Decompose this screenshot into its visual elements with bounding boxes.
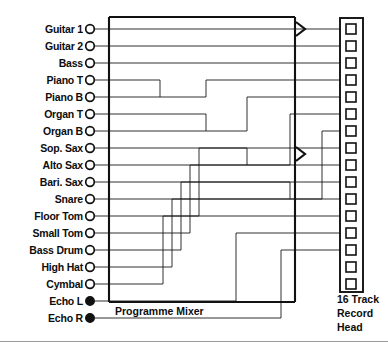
- channel-label-cymbal: Cymbal: [46, 278, 83, 290]
- record-head-pad-2[interactable]: [346, 41, 356, 51]
- signal-wire-group: [95, 29, 341, 318]
- channel-label-bass: Bass: [59, 57, 84, 69]
- record-head-pad-12[interactable]: [346, 211, 356, 221]
- arrow-right-icon-lower: [296, 147, 305, 161]
- channel-label-organ-b: Organ B: [43, 125, 84, 137]
- input-jack-snare[interactable]: [86, 195, 95, 204]
- input-jack-bass-drum[interactable]: [86, 246, 95, 255]
- wire-piano-b: [95, 80, 341, 97]
- input-jack-guitar-2[interactable]: [86, 42, 95, 51]
- channel-label-floor-tom: Floor Tom: [34, 210, 83, 222]
- input-jack-bari-sax[interactable]: [86, 178, 95, 187]
- wire-sop-sax: [95, 148, 248, 165]
- diagram-canvas: Guitar 1 Guitar 2 Bass Piano T Piano B O…: [0, 0, 388, 344]
- programme-mixer-box: [109, 17, 295, 302]
- channel-label-alto-sax: Alto Sax: [43, 159, 84, 171]
- channel-label-snare: Snare: [55, 193, 84, 205]
- channel-label-guitar-2: Guitar 2: [45, 40, 83, 52]
- record-head-pad-5[interactable]: [346, 92, 356, 102]
- input-jack-echo-r[interactable]: [86, 314, 95, 323]
- input-jack-sop-sax[interactable]: [86, 144, 95, 153]
- channel-label-sop-sax: Sop. Sax: [40, 142, 83, 154]
- input-jack-piano-t[interactable]: [86, 76, 95, 85]
- record-head-pad-1[interactable]: [346, 24, 356, 34]
- channel-label-bari-sax: Bari. Sax: [40, 176, 84, 188]
- input-jack-organ-b[interactable]: [86, 127, 95, 136]
- record-head-caption-line-2: Record: [337, 307, 373, 319]
- record-head-pad-3[interactable]: [346, 58, 356, 68]
- record-head-pad-7[interactable]: [346, 126, 356, 136]
- record-head-pad-13[interactable]: [346, 228, 356, 238]
- input-jack-small-tom[interactable]: [86, 229, 95, 238]
- record-head-pad-10[interactable]: [346, 177, 356, 187]
- channel-label-echo-l: Echo L: [49, 295, 84, 307]
- record-head-pad-4[interactable]: [346, 75, 356, 85]
- channel-label-guitar-1: Guitar 1: [45, 23, 83, 35]
- channel-label-small-tom: Small Tom: [32, 227, 83, 239]
- channel-label-high-hat: High Hat: [41, 261, 83, 273]
- wire-piano-t: [95, 80, 161, 97]
- record-head-pad-8[interactable]: [346, 143, 356, 153]
- input-jack-bass[interactable]: [86, 59, 95, 68]
- record-head-caption-line-1: 16 Track: [337, 293, 379, 305]
- wire-organ-t: [95, 114, 207, 131]
- input-jack-group: [86, 25, 95, 323]
- input-jack-piano-b[interactable]: [86, 93, 95, 102]
- channel-label-bass-drum: Bass Drum: [29, 244, 83, 256]
- mixer-caption: Programme Mixer: [115, 305, 204, 317]
- channel-label-piano-b: Piano B: [45, 91, 83, 103]
- channel-label-organ-t: Organ T: [44, 108, 84, 120]
- input-jack-guitar-1[interactable]: [86, 25, 95, 34]
- input-jack-floor-tom[interactable]: [86, 212, 95, 221]
- channel-label-echo-r: Echo R: [48, 312, 84, 324]
- input-jack-high-hat[interactable]: [86, 263, 95, 272]
- record-head-pad-11[interactable]: [346, 194, 356, 204]
- wire-bari-sax: [95, 182, 291, 199]
- input-jack-organ-t[interactable]: [86, 110, 95, 119]
- input-jack-alto-sax[interactable]: [86, 161, 95, 170]
- record-head-pad-16[interactable]: [346, 279, 356, 289]
- record-head-pad-6[interactable]: [346, 109, 356, 119]
- record-head-pad-9[interactable]: [346, 160, 356, 170]
- record-head-pad-14[interactable]: [346, 245, 356, 255]
- channel-label-group: Guitar 1 Guitar 2 Bass Piano T Piano B O…: [29, 23, 83, 324]
- arrowhead-group: [296, 22, 305, 161]
- record-head-caption-line-3: Head: [337, 321, 363, 333]
- wire-alto-sax: [95, 114, 341, 165]
- record-head-pad-15[interactable]: [346, 262, 356, 272]
- input-jack-echo-l[interactable]: [86, 297, 95, 306]
- record-head-assembly: [340, 18, 363, 292]
- input-jack-cymbal[interactable]: [86, 280, 95, 289]
- channel-label-piano-t: Piano T: [46, 74, 83, 86]
- signal-routing-diagram: Guitar 1 Guitar 2 Bass Piano T Piano B O…: [0, 0, 388, 344]
